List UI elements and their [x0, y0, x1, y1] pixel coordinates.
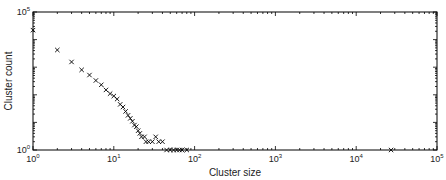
x-tick-label: 105 — [430, 153, 444, 164]
y-tick-label: 105 — [17, 6, 31, 17]
x-tick-label: 100 — [26, 153, 40, 164]
x-marker — [69, 60, 73, 64]
x-marker — [153, 135, 157, 139]
x-tick-label: 104 — [350, 153, 364, 164]
x-tick-label: 103 — [269, 153, 283, 164]
x-marker — [121, 105, 125, 109]
x-tick-label: 102 — [188, 153, 202, 164]
x-tick-label: 101 — [107, 153, 121, 164]
x-marker — [150, 139, 154, 143]
x-axis-label: Cluster size — [209, 167, 262, 178]
x-marker — [104, 88, 108, 92]
x-marker — [87, 73, 91, 77]
x-marker — [115, 97, 119, 101]
x-marker — [126, 113, 130, 117]
y-ticks: 100105 — [17, 6, 437, 155]
x-marker — [55, 48, 59, 52]
scatter-chart: 100101102103104105 100105 Cluster size C… — [0, 0, 446, 180]
x-marker — [128, 116, 132, 120]
x-marker — [123, 109, 127, 113]
x-ticks: 100101102103104105 — [26, 12, 444, 164]
data-points — [31, 28, 393, 152]
x-marker — [134, 124, 138, 128]
x-marker — [94, 78, 98, 82]
x-marker — [79, 68, 83, 72]
x-marker — [108, 91, 112, 95]
y-axis-label: Cluster count — [3, 51, 14, 110]
x-marker — [99, 83, 103, 87]
plot-frame — [33, 12, 437, 150]
x-marker — [160, 139, 164, 143]
x-marker — [142, 135, 146, 139]
